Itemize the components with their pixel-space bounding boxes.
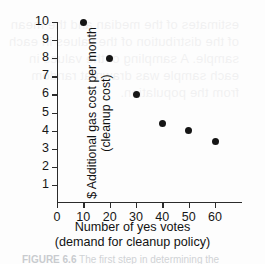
y-tick-10: 10: [52, 22, 57, 23]
x-tick-10: 10: [83, 203, 84, 208]
y-tick-7: 7: [52, 76, 57, 77]
y-tick-label-8: 8: [42, 50, 49, 65]
y-tick-label-2: 2: [42, 159, 49, 174]
y-tick-9: 9: [52, 40, 57, 41]
y-tick-3: 3: [52, 149, 57, 150]
data-point: [80, 19, 87, 26]
y-tick-6: 6: [52, 94, 57, 95]
y-axis-label-line2: (cleanup cost): [99, 27, 113, 199]
x-tick-30: 30: [136, 203, 137, 208]
figure-page: estimates of the median and the mean of …: [0, 0, 265, 264]
x-axis-label: Number of yes votes (demand for cleanup …: [5, 220, 260, 250]
y-tick-label-9: 9: [42, 32, 49, 47]
y-tick-5: 5: [52, 113, 57, 114]
x-tick-40: 40: [162, 203, 163, 208]
y-axis-line: [57, 22, 58, 203]
scatter-plot: 10 9 8 7 6 5 4 3 2 1 0: [57, 22, 215, 203]
y-tick-label-10: 10: [35, 14, 49, 29]
x-tick-20: 20: [110, 203, 111, 208]
y-tick-label-3: 3: [42, 141, 49, 156]
data-point: [212, 138, 219, 145]
data-point: [133, 91, 140, 98]
y-tick-label-1: 1: [42, 177, 49, 192]
x-tick-50: 50: [189, 203, 190, 208]
figure-caption-text: The first step in determining the: [79, 254, 219, 264]
y-tick-label-5: 5: [42, 105, 49, 120]
data-point: [185, 127, 192, 134]
y-tick-1: 1: [52, 185, 57, 186]
x-tick-0: 0: [57, 203, 58, 208]
y-tick-2: 2: [52, 167, 57, 168]
y-tick-label-6: 6: [42, 86, 49, 101]
x-axis-label-line2: (demand for cleanup policy): [5, 235, 260, 250]
y-tick-label-4: 4: [42, 123, 49, 138]
y-tick-8: 8: [52, 58, 57, 59]
x-tick-60: 60: [215, 203, 216, 208]
y-tick-4: 4: [52, 131, 57, 132]
figure-caption-number: FIGURE 6.6: [22, 254, 76, 264]
y-tick-label-7: 7: [42, 68, 49, 83]
y-axis-label: $ Additional gas cost per month (cleanup…: [85, 27, 113, 199]
figure-caption: FIGURE 6.6 The first step in determining…: [22, 254, 260, 264]
data-point: [159, 120, 166, 127]
y-axis-label-line1: $ Additional gas cost per month: [85, 27, 99, 199]
x-axis-label-line1: Number of yes votes: [5, 220, 260, 235]
